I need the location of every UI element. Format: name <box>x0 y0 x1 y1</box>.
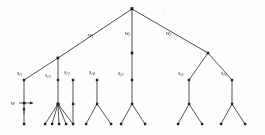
node-s31-fork <box>188 103 190 105</box>
node-root <box>130 7 133 10</box>
label-s21-sub: 21 <box>120 73 124 77</box>
node-label-s31: s31 <box>178 70 184 77</box>
edge-s21-leaf2 <box>132 104 145 124</box>
node-s14-fork <box>96 103 98 105</box>
node-s11 <box>23 79 25 81</box>
node-s2 <box>131 52 134 55</box>
leaf-node <box>244 123 246 125</box>
leaf-node <box>23 123 25 125</box>
node-s13 <box>72 79 74 81</box>
node-s31 <box>188 79 190 81</box>
annotation-origin-node <box>23 102 26 105</box>
svg-text:w2: w2 <box>125 30 131 37</box>
label-w3-sub: 3 <box>170 33 172 37</box>
subtree-s21 <box>121 53 145 124</box>
label-s32-sub: 32 <box>223 73 227 77</box>
edge-s14-leaf1 <box>86 104 97 124</box>
svg-text:s13: s13 <box>64 69 70 76</box>
svg-text:s21: s21 <box>118 70 124 77</box>
edge-s14-leaf2 <box>97 104 111 124</box>
edge-s32-leaf2 <box>232 104 245 124</box>
annotation-label-w: w <box>11 100 15 106</box>
svg-text:s14: s14 <box>89 69 95 76</box>
leaf-node <box>144 123 146 125</box>
label-s13-sub: 13 <box>66 72 70 76</box>
edge-s1-to-s11 <box>24 58 58 80</box>
svg-text:w1: w1 <box>88 32 94 39</box>
node-s32-fork <box>231 103 233 105</box>
branch-label-w2: w2 <box>125 30 131 37</box>
node-s1 <box>57 57 60 60</box>
label-s11-sub: 11 <box>19 73 23 77</box>
svg-text:s11: s11 <box>17 70 23 77</box>
tree-diagram-figure: w1 w2 w3 w s11 s12 s13 <box>0 0 265 135</box>
node-s32 <box>231 79 233 81</box>
leaf-node <box>51 123 53 125</box>
node-label-s12: s12 <box>45 72 51 79</box>
axis-annotation <box>19 102 33 114</box>
edge-s32-leaf1 <box>221 104 232 124</box>
svg-text:s31: s31 <box>178 70 184 77</box>
label-s31-sub: 31 <box>180 73 184 77</box>
label-w2-sub: 2 <box>129 33 131 37</box>
leaf-node <box>177 123 179 125</box>
node-s12 <box>57 79 59 81</box>
leaf-node <box>65 123 67 125</box>
label-w1-sub: 1 <box>92 35 94 39</box>
edge-root-to-s1 <box>58 9 132 58</box>
branch-label-w1: w1 <box>88 32 94 39</box>
tree-edges-level1 <box>58 9 208 58</box>
svg-text:s12: s12 <box>45 72 51 79</box>
tree-diagram-canvas: w1 w2 w3 w s11 s12 s13 <box>0 0 265 135</box>
subtree-s12 <box>45 80 73 124</box>
label-s12-sub: 12 <box>47 75 51 79</box>
subtree-s32 <box>221 80 245 124</box>
node-s21-fork <box>131 103 133 105</box>
node-label-s14: s14 <box>89 69 95 76</box>
edge-s31-leaf2 <box>189 104 202 124</box>
label-w-annotation: w <box>11 100 15 106</box>
leaf-node <box>58 123 60 125</box>
edge-s3-to-s32 <box>208 53 232 80</box>
node-label-s11: s11 <box>17 70 23 77</box>
edge-s12-leaf1 <box>45 104 58 124</box>
edge-s31-leaf1 <box>178 104 189 124</box>
leaf-node <box>201 123 203 125</box>
node-s14 <box>96 79 98 81</box>
node-label-s13: s13 <box>64 69 70 76</box>
leaf-node <box>44 123 46 125</box>
leaf-node <box>120 123 122 125</box>
node-s21 <box>131 79 133 81</box>
edge-s3-to-s31 <box>189 53 208 80</box>
label-s14-sub: 14 <box>91 72 95 76</box>
edge-s12-leaf2 <box>52 104 58 124</box>
leaf-node <box>85 123 87 125</box>
subtree-s14 <box>86 80 111 124</box>
edge-s12-leaf5 <box>58 104 73 124</box>
leaf-node <box>220 123 222 125</box>
edge-s21-leaf1 <box>121 104 132 124</box>
edge-root-to-s3 <box>132 9 208 53</box>
leaf-node <box>110 123 112 125</box>
subtree-s31 <box>178 80 202 124</box>
leaf-node <box>72 123 74 125</box>
tree-edges-left-branch <box>24 58 58 80</box>
node-s12-fan <box>56 103 59 106</box>
node-label-s21: s21 <box>118 70 124 77</box>
node-s3 <box>207 52 210 55</box>
node-s13-mid <box>72 103 74 105</box>
